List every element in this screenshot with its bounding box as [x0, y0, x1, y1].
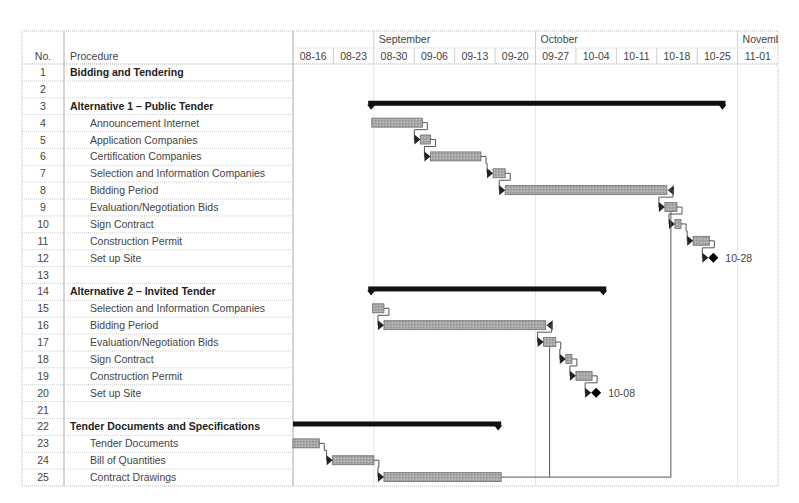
- link-arrow-icon: [687, 236, 693, 246]
- link-arrow-icon: [327, 455, 333, 465]
- summary-bar: [293, 421, 501, 426]
- link-arrow-icon: [669, 219, 675, 229]
- task-bar: [384, 321, 546, 330]
- gantt-bars: 10-2810-08: [0, 0, 799, 503]
- dependency-link: [501, 212, 671, 477]
- summary-start-cap-icon: [367, 290, 375, 295]
- milestone-diamond-icon: [708, 253, 718, 263]
- task-bar: [384, 473, 501, 482]
- summary-end-cap-icon: [494, 425, 502, 430]
- link-arrow-icon: [487, 168, 493, 178]
- task-bar: [566, 354, 572, 363]
- task-bar: [576, 371, 592, 380]
- summary-bar: [368, 101, 725, 106]
- milestone-date-label: 10-28: [725, 252, 752, 264]
- link-arrow-icon: [585, 388, 591, 398]
- link-arrow-icon: [659, 202, 665, 212]
- link-arrow-icon: [560, 354, 566, 364]
- summary-end-cap-icon: [718, 105, 726, 110]
- task-bar: [420, 135, 430, 144]
- task-bar: [293, 439, 319, 448]
- link-arrow-icon: [570, 371, 576, 381]
- task-bar: [333, 456, 374, 465]
- summary-start-cap-icon: [367, 105, 375, 110]
- link-arrow-icon: [378, 472, 384, 482]
- task-bar: [430, 152, 481, 161]
- task-bar: [505, 186, 667, 195]
- task-bar: [493, 169, 505, 178]
- dependency-link: [319, 443, 331, 460]
- link-arrow-icon: [414, 135, 420, 145]
- link-arrow-icon: [538, 337, 544, 347]
- task-bar: [544, 338, 556, 347]
- milestone-date-label: 10-08: [608, 387, 635, 399]
- summary-bar: [368, 286, 606, 291]
- dependency-link: [481, 156, 492, 173]
- gantt-chart: No.ProcedureSeptemberOctoberNovemb08-160…: [0, 0, 799, 503]
- link-arrow-icon: [378, 320, 384, 330]
- task-bar: [373, 304, 384, 313]
- link-arrow-icon: [499, 185, 505, 195]
- milestone-diamond-icon: [591, 388, 601, 398]
- task-bar: [372, 118, 423, 127]
- summary-end-cap-icon: [599, 290, 607, 295]
- task-bar: [693, 236, 709, 245]
- dependency-link: [681, 224, 692, 241]
- task-bar: [675, 219, 681, 228]
- link-arrow-icon: [702, 253, 708, 263]
- link-arrow-icon: [424, 151, 430, 161]
- task-bar: [665, 203, 677, 212]
